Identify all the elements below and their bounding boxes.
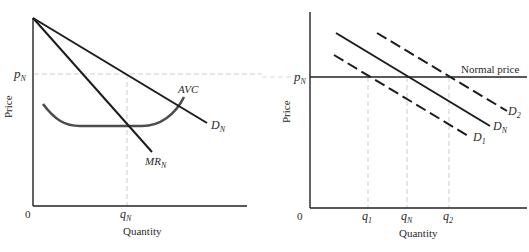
right-panel: pN Normal price D2 DN D1 0 q1 qN q2 Quan… [262, 12, 527, 239]
avc-curve [43, 97, 184, 126]
diagram-canvas: pN 0 qN Quantity Price AVC DN MRN [0, 0, 529, 252]
left-origin-label: 0 [25, 208, 31, 220]
normal-price-label: Normal price [461, 63, 519, 75]
right-pn-label: pN [293, 69, 307, 86]
right-y-axis-label: Price [280, 100, 292, 123]
left-dn-label: DN [210, 118, 226, 134]
left-panel: pN 0 qN Quantity Price AVC DN MRN [2, 18, 262, 237]
mr-label: MRN [144, 155, 167, 170]
dn-curve [336, 33, 490, 126]
qn-label: qN [401, 209, 413, 225]
left-pn-label: pN [13, 66, 27, 83]
d2-label: D2 [507, 104, 521, 120]
dn-label: DN [492, 119, 508, 135]
left-y-axis-label: Price [2, 95, 14, 118]
d1-label: D1 [472, 130, 486, 146]
right-origin-label: 0 [297, 210, 303, 222]
left-qn-label: qN [120, 207, 132, 223]
left-demand-curve [33, 18, 207, 123]
right-x-axis-label: Quantity [399, 227, 438, 239]
marginal-revenue-curve [33, 18, 152, 152]
avc-label: AVC [177, 83, 199, 95]
q2-label: q2 [443, 209, 453, 225]
left-x-axis-label: Quantity [123, 225, 162, 237]
q1-label: q1 [362, 209, 372, 225]
d1-curve [334, 55, 470, 137]
